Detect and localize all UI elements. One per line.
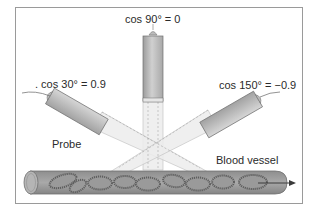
cos-150-label: cos 150° = −0.9 [219, 80, 296, 91]
blood-vessel-label: Blood vessel [216, 155, 278, 166]
blood-vessel [24, 171, 296, 195]
doppler-diagram [0, 0, 317, 214]
cos-30-label: . cos 30° = 0.9 [35, 79, 106, 90]
probe-label: Probe [52, 139, 81, 150]
cos-90-label: cos 90° = 0 [125, 14, 180, 25]
probe-90 [143, 24, 163, 102]
